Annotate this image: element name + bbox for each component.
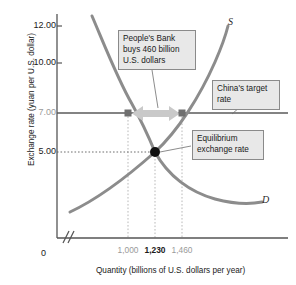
callout-china-target-rate: China's target rate [212, 80, 280, 110]
axis-break-mark-2 [68, 231, 74, 243]
quantity-demanded-marker [125, 110, 132, 117]
leader-line-equilibrium [160, 146, 191, 152]
origin-label: 0 [28, 248, 46, 258]
supply-curve-label: S [228, 16, 233, 27]
x-axis-title: Quantity (billions of U.S. dollars per y… [96, 266, 296, 275]
x-tick-label-1460: 1,460 [160, 245, 204, 255]
callout-peoples-bank: People's Bank buys 460 billion U.S. doll… [118, 30, 196, 70]
demand-curve-label: D [262, 194, 269, 205]
y-axis-title: Exchange rate (yuan per U.S. dollar) [27, 15, 36, 185]
exchange-rate-chart-figure: 12.00 10.00 7.00 5.00 0 1,000 1,230 1,46… [0, 0, 296, 285]
equilibrium-point-marker [150, 147, 160, 157]
leader-line-peoples-bank [152, 70, 158, 108]
quantity-supplied-marker [179, 110, 186, 117]
axis-break-mark-1 [63, 231, 69, 243]
callout-equilibrium-exchange-rate: Equilibrium exchange rate [192, 130, 264, 160]
